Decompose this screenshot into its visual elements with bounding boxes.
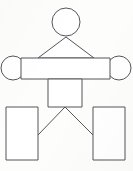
drawing-canvas: Geometric stick figure line drawing Line…: [0, 0, 133, 171]
crotch-line-right-shape: [65, 107, 93, 135]
left-leg-rectangle-shape: [6, 107, 38, 160]
crotch-line-left-shape: [38, 107, 65, 135]
right-hand-circle-icon: [107, 56, 131, 80]
geometric-figure-drawing: [0, 0, 133, 171]
torso-rectangle-shape: [48, 79, 82, 107]
head-circle-shape: [52, 8, 80, 36]
arms-bar-rectangle-shape: [21, 58, 110, 79]
right-leg-rectangle-shape: [93, 107, 125, 160]
neck-triangle-shape: [38, 37, 94, 58]
